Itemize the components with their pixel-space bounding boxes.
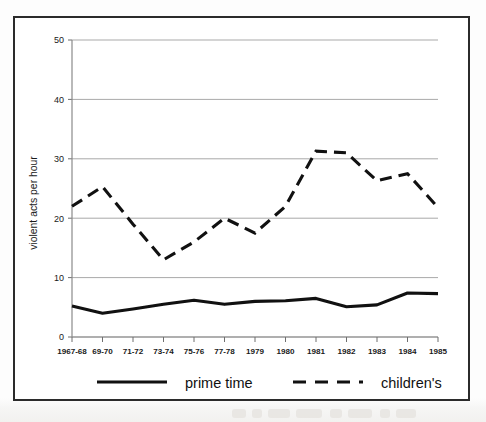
x-tick-label: 75-76: [184, 347, 205, 356]
x-tick-label: 1967-68: [57, 347, 87, 356]
legend-label: children's: [381, 375, 442, 391]
x-tick-label: 1979: [246, 347, 265, 356]
x-tick-label: 69-70: [92, 347, 113, 356]
x-tick-label: 1983: [368, 347, 387, 356]
chart-legend: prime timechildren's: [97, 375, 442, 391]
x-tick-marks-group: [72, 337, 438, 342]
x-tick-label: 1984: [398, 347, 417, 356]
series-line-children-s: [72, 151, 438, 260]
gridlines-group: [68, 40, 438, 337]
x-tick-label: 77-78: [214, 347, 235, 356]
y-tick-labels-group: 01020304050: [54, 35, 64, 342]
x-tick-label: 1982: [337, 347, 356, 356]
x-tick-label: 1981: [307, 347, 326, 356]
y-tick-label: 10: [54, 273, 64, 283]
y-tick-label: 30: [54, 154, 64, 164]
chart-canvas: 01020304050 1967-6869-7071-7273-7475-767…: [15, 18, 468, 399]
scan-artifact-band: [0, 398, 486, 422]
chart-figure-frame: 01020304050 1967-6869-7071-7273-7475-767…: [13, 16, 470, 401]
y-axis-title: violent acts per hour: [28, 156, 39, 250]
y-tick-label: 50: [54, 35, 64, 45]
series-line-prime-time: [72, 293, 438, 313]
x-tick-label: 71-72: [123, 347, 144, 356]
legend-label: prime time: [185, 375, 253, 391]
x-tick-label: 73-74: [153, 347, 174, 356]
line-chart: 01020304050 1967-6869-7071-7273-7475-767…: [15, 18, 468, 399]
x-tick-label: 1980: [276, 347, 295, 356]
x-tick-labels-group: 1967-6869-7071-7273-7475-7677-7819791980…: [57, 347, 447, 356]
x-tick-label: 1985: [429, 347, 448, 356]
y-tick-label: 40: [54, 95, 64, 105]
y-tick-label: 0: [59, 332, 64, 342]
y-tick-label: 20: [54, 214, 64, 224]
data-series-group: [72, 151, 438, 313]
